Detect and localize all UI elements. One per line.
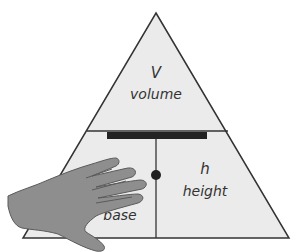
volume-label: volume <box>130 86 182 102</box>
height-symbol: h <box>200 160 210 178</box>
multiply-dot <box>151 170 161 180</box>
volume-symbol: V <box>151 64 163 82</box>
division-bar <box>107 132 207 139</box>
formula-triangle-diagram: V volume h height base <box>0 0 293 252</box>
height-label: height <box>183 183 228 199</box>
